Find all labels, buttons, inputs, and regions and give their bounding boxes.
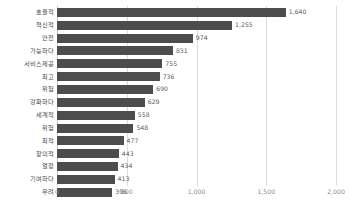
bar-row: 558 — [57, 109, 336, 122]
category-label-row: 열정 — [0, 160, 54, 173]
bar[interactable] — [57, 162, 118, 171]
bar-value-label: 413 — [118, 176, 130, 182]
category-label: 최적 — [42, 138, 54, 144]
plot-area: 1,6401,255974831755736690629558548477443… — [57, 6, 336, 186]
bar[interactable] — [57, 46, 173, 55]
bar-value-label: 1,255 — [235, 22, 253, 28]
category-label-row: 최적 — [0, 134, 54, 147]
x-tick-1000: 1,000 — [188, 188, 206, 195]
bar-row: 629 — [57, 96, 336, 109]
bar[interactable] — [57, 59, 162, 68]
bar[interactable] — [57, 8, 286, 17]
bar-value-label: 831 — [176, 48, 188, 54]
category-label: 최고 — [42, 74, 54, 80]
bar-value-label: 736 — [163, 74, 175, 80]
bar-chart: 효율적혁신적안전가능하다서비스제공최고위험강화하다세계적위험최적창의적열정기여하… — [0, 0, 350, 218]
bar[interactable] — [57, 34, 193, 43]
category-label: 우려 — [42, 189, 54, 195]
bar-value-label: 690 — [156, 86, 168, 92]
category-label-row: 혁신적 — [0, 19, 54, 32]
category-label: 서비스제공 — [24, 61, 54, 67]
bar-row: 736 — [57, 70, 336, 83]
bar-row: 477 — [57, 134, 336, 147]
bar[interactable] — [57, 124, 133, 133]
bar[interactable] — [57, 136, 124, 145]
bar[interactable] — [57, 85, 153, 94]
bar[interactable] — [57, 175, 115, 184]
x-tick-1500: 1,500 — [257, 188, 275, 195]
category-label-row: 가능하다 — [0, 45, 54, 58]
category-label-row: 창의적 — [0, 147, 54, 160]
category-label: 위험 — [42, 125, 54, 131]
x-tick-2000: 2,000 — [327, 188, 345, 195]
category-label-row: 위험 — [0, 122, 54, 135]
category-label: 열정 — [42, 163, 54, 169]
category-label-row: 서비스제공 — [0, 57, 54, 70]
bar-row: 1,255 — [57, 19, 336, 32]
bar[interactable] — [57, 72, 160, 81]
gridline-2000 — [336, 6, 337, 186]
x-axis-tick-labels: 05001,0001,5002,000 — [57, 188, 336, 208]
bar[interactable] — [57, 21, 232, 30]
bar-value-label: 1,640 — [289, 9, 307, 15]
category-label-row: 우려 — [0, 186, 54, 199]
bar[interactable] — [57, 149, 119, 158]
bar-row: 831 — [57, 45, 336, 58]
bar[interactable] — [57, 111, 135, 120]
bar-value-label: 558 — [138, 112, 150, 118]
x-tick-500: 500 — [121, 188, 133, 195]
bar-row: 548 — [57, 122, 336, 135]
category-label: 강화하다 — [30, 99, 54, 105]
bar-row: 974 — [57, 32, 336, 45]
bar-row: 755 — [57, 57, 336, 70]
category-label-row: 기여하다 — [0, 173, 54, 186]
x-tick-0: 0 — [55, 188, 59, 195]
category-label: 혁신적 — [36, 22, 54, 28]
category-label: 창의적 — [36, 151, 54, 157]
bar-row: 443 — [57, 147, 336, 160]
bar-value-label: 974 — [196, 35, 208, 41]
bar-value-label: 443 — [122, 151, 134, 157]
category-label: 세계적 — [36, 112, 54, 118]
bar-value-label: 629 — [148, 99, 160, 105]
category-label-row: 위험 — [0, 83, 54, 96]
category-label-row: 최고 — [0, 70, 54, 83]
category-label: 위험 — [42, 86, 54, 92]
bar-rows: 1,6401,255974831755736690629558548477443… — [57, 6, 336, 186]
category-axis-labels: 효율적혁신적안전가능하다서비스제공최고위험강화하다세계적위험최적창의적열정기여하… — [0, 6, 54, 186]
category-label: 효율적 — [36, 9, 54, 15]
bar-row: 1,640 — [57, 6, 336, 19]
category-label: 가능하다 — [30, 48, 54, 54]
category-label-row: 효율적 — [0, 6, 54, 19]
bar-row: 690 — [57, 83, 336, 96]
bar-value-label: 434 — [121, 163, 133, 169]
category-label-row: 안전 — [0, 32, 54, 45]
category-label: 안전 — [42, 35, 54, 41]
category-label: 기여하다 — [30, 176, 54, 182]
bar-value-label: 755 — [165, 61, 177, 67]
bar-row: 434 — [57, 160, 336, 173]
category-label-row: 세계적 — [0, 109, 54, 122]
category-label-row: 강화하다 — [0, 96, 54, 109]
bar-value-label: 477 — [127, 138, 139, 144]
bar-value-label: 548 — [136, 125, 148, 131]
bar-row: 413 — [57, 173, 336, 186]
bar[interactable] — [57, 98, 145, 107]
